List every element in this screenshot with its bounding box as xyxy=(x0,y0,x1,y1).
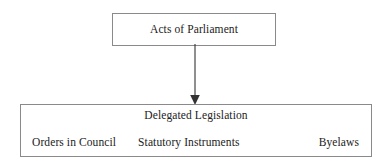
node-acts-of-parliament-label: Acts of Parliament xyxy=(150,24,238,36)
node-delegated-legislation[interactable]: Delegated Legislation Orders in Council … xyxy=(20,104,372,157)
child-statutory-instruments[interactable]: Statutory Instruments xyxy=(126,137,239,149)
node-delegated-legislation-title: Delegated Legislation xyxy=(21,110,371,122)
arrow-down-icon xyxy=(187,44,203,106)
flowchart-diagram: Acts of Parliament Delegated Legislation… xyxy=(0,0,392,168)
child-byelaws[interactable]: Byelaws xyxy=(319,137,359,149)
child-orders-in-council[interactable]: Orders in Council xyxy=(32,137,116,149)
node-acts-of-parliament[interactable]: Acts of Parliament xyxy=(112,13,276,46)
delegated-legislation-children: Orders in Council Statutory Instruments … xyxy=(30,133,362,153)
